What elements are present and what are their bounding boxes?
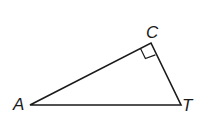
vertex-label-t: T bbox=[182, 97, 192, 114]
vertex-label-c: C bbox=[146, 24, 158, 41]
triangle-diagram: A C T bbox=[0, 0, 208, 126]
right-angle-marker bbox=[141, 48, 156, 58]
vertex-label-a: A bbox=[13, 96, 24, 113]
triangle-figure bbox=[0, 0, 208, 126]
triangle-act bbox=[30, 43, 181, 105]
